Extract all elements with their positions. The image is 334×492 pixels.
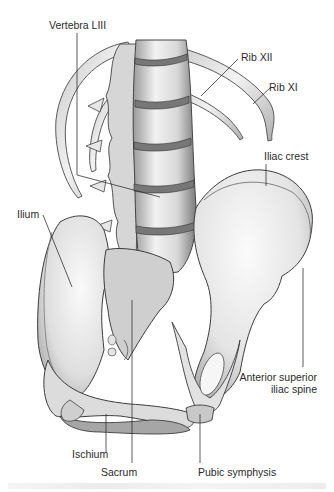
pelvis-spine-illustration <box>0 0 334 492</box>
label-anterior-superior-iliac-spine: Anterior superior iliac spine <box>238 371 317 395</box>
cropped-caption <box>8 483 326 489</box>
label-vertebra-liii: Vertebra LIII <box>49 19 106 31</box>
label-rib-xii: Rib XII <box>241 51 273 63</box>
label-ilium: Ilium <box>17 208 39 220</box>
label-asis-line2: iliac spine <box>238 383 317 395</box>
label-sacrum: Sacrum <box>101 466 137 478</box>
label-asis-line1: Anterior superior <box>238 371 317 383</box>
label-rib-xi: Rib XI <box>269 81 298 93</box>
label-ischium: Ischium <box>72 448 108 460</box>
label-pubic-symphysis: Pubic symphysis <box>198 466 276 478</box>
label-iliac-crest: Iliac crest <box>264 150 308 162</box>
sacrum-shape <box>104 249 174 361</box>
